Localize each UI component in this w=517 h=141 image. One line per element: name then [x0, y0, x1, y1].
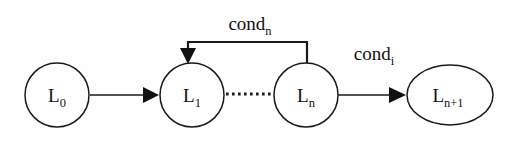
node-l0[interactable]: L0 — [25, 63, 89, 127]
edge-ln-to-ln1-arrowhead — [389, 87, 406, 103]
edge-label-cond-i: condi — [354, 43, 395, 68]
node-ln-subscript: n — [309, 96, 316, 110]
edge-ln-to-ln1 — [338, 87, 406, 103]
edge-l0-to-l1-arrowhead — [143, 87, 159, 103]
node-ln-plus-1-base: L — [432, 85, 444, 106]
node-l1-base: L — [183, 85, 195, 106]
node-ln-base: L — [297, 85, 309, 106]
node-l1[interactable]: L1 — [160, 63, 224, 127]
node-ln-plus-1-ellipse[interactable] — [407, 65, 493, 125]
edge-ln-to-l1-feedback-path — [188, 42, 307, 66]
diagram-canvas: L0 L1 Ln Ln+1 condn condi — [0, 0, 517, 141]
node-ln-plus-1-subscript: n+1 — [444, 96, 464, 110]
edge-label-cond-n: condn — [228, 13, 272, 38]
edge-label-cond-n-subscript: n — [265, 24, 272, 38]
loop-condition-diagram: L0 L1 Ln Ln+1 condn condi — [0, 0, 517, 141]
edge-label-cond-n-base: cond — [228, 13, 265, 34]
edge-ln-to-l1-feedback — [180, 42, 307, 66]
edge-label-cond-i-subscript: i — [391, 54, 395, 68]
edge-label-cond-i-base: cond — [354, 43, 391, 64]
node-ln-plus-1[interactable]: Ln+1 — [407, 65, 493, 125]
edge-ln-to-l1-feedback-arrowhead — [180, 48, 196, 64]
node-l0-base: L — [48, 85, 60, 106]
node-l0-subscript: 0 — [60, 96, 66, 110]
node-ln[interactable]: Ln — [274, 63, 338, 127]
edge-l0-to-l1 — [90, 87, 159, 103]
node-l1-subscript: 1 — [195, 96, 201, 110]
